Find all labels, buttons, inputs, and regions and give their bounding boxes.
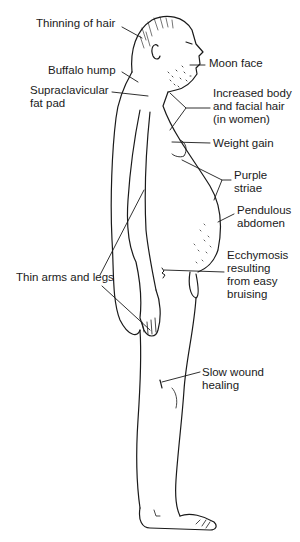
label-slow-wound-healing: Slow wound healing: [202, 366, 264, 392]
leader-supraclavicular: [112, 92, 148, 96]
leader-thin-arm: [100, 190, 144, 275]
bruise-mark: [162, 268, 165, 278]
beard-stipple: [168, 66, 191, 87]
label-ecchymosis: Ecchymosis resulting from easy bruising: [227, 249, 288, 301]
label-buffalo-hump: Buffalo hump: [48, 64, 116, 77]
hand: [142, 318, 156, 334]
hair-hatching: [140, 17, 173, 48]
label-increased-body-facial-hair: Increased body and facial hair (in women…: [213, 87, 292, 126]
leader-weight-gain: [172, 142, 210, 143]
leader-thin-leg: [102, 286, 150, 330]
head-outline: [132, 16, 203, 92]
back-outline: [111, 72, 140, 335]
leader-body-hair-bracket: [170, 93, 186, 130]
leader-ecchymosis: [164, 270, 224, 272]
front-leg: [176, 298, 196, 516]
label-supraclavicular-fat-pad: Supraclavicular fat pad: [30, 84, 109, 110]
ear: [152, 45, 160, 59]
back-leg: [137, 330, 141, 508]
label-purple-striae: Purple striae: [234, 169, 267, 195]
label-pendulous-abdomen: Pendulous abdomen: [237, 204, 291, 230]
genital-outline: [189, 272, 198, 298]
knee-line: [172, 388, 177, 408]
label-thin-arms-and-legs: Thin arms and legs: [16, 271, 114, 284]
leader-lines: [100, 27, 234, 382]
arm-outline: [127, 110, 160, 336]
eye: [186, 42, 192, 44]
abdomen-stipple: [194, 224, 211, 263]
chest-outline: [163, 92, 220, 272]
leader-striae-bracket: [182, 160, 222, 200]
leader-buffalo-hump: [122, 72, 138, 82]
cushing-features-diagram: Thinning of hair Moon face Buffalo hump …: [0, 0, 300, 542]
leader-slow-wound-healing: [162, 372, 200, 382]
label-weight-gain: Weight gain: [213, 137, 274, 150]
toes: [196, 520, 210, 528]
label-thinning-of-hair: Thinning of hair: [36, 17, 115, 30]
wound-mark: [160, 380, 162, 388]
ankle: [154, 510, 160, 516]
arm-inner: [145, 112, 156, 290]
label-moon-face: Moon face: [209, 57, 263, 70]
